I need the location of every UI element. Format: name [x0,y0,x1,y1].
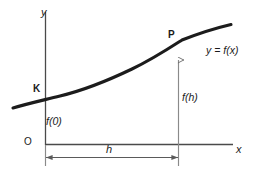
interval-h-label: h [106,144,112,155]
f-of-h-label: f(h) [182,92,198,103]
point-k-label: K [33,84,40,94]
math-figure-diagram: y x K P f(0) f(h) y = f(x) O h [0,0,254,172]
x-axis-label: x [236,144,242,155]
point-p-label: P [168,30,175,40]
f-of-zero-label: f(0) [46,116,62,127]
y-axis-label: y [41,7,47,18]
origin-label: O [24,137,32,147]
curve-equation-label: y = f(x) [206,45,238,56]
